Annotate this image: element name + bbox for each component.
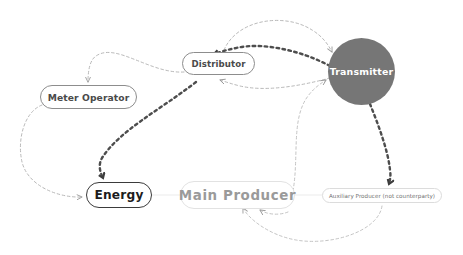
diagram-edges-layer [0,0,463,255]
edge-main-producer-bottom-stub [260,210,288,214]
edge-transmitter-to-auxiliary-producer [370,104,390,184]
node-transmitter[interactable]: Transmitter [328,38,395,105]
node-energy-label: Energy [94,188,143,202]
node-distributor-label: Distributor [191,59,245,69]
edge-meter-operator-to-energy [20,105,82,197]
node-distributor[interactable]: Distributor [182,52,255,75]
edge-auxiliary-producer-to-main-producer [243,206,382,241]
node-meter-operator[interactable]: Meter Operator [40,85,137,109]
node-transmitter-label: Transmitter [330,66,394,77]
node-auxiliary-producer[interactable]: Auxiliary Producer (not counterparty) [322,188,442,203]
node-meter-operator-label: Meter Operator [48,92,130,103]
edge-distributor-to-meter-operator [88,52,184,82]
node-main-producer-label: Main Producer [179,188,296,203]
node-main-producer[interactable]: Main Producer [180,181,295,209]
edge-main-producer-to-transmitter [292,80,326,196]
diagram-canvas: Meter Operator Distributor Transmitter E… [0,0,463,255]
node-auxiliary-producer-label: Auxiliary Producer (not counterparty) [329,193,435,199]
edge-transmitter-to-distributor-lower [220,78,330,88]
node-energy[interactable]: Energy [86,182,152,208]
